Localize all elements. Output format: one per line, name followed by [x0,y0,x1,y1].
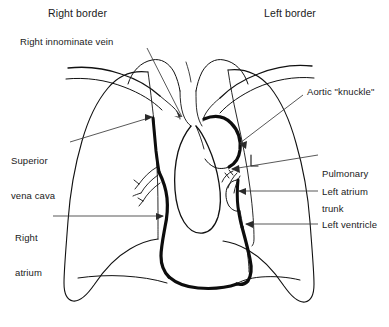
right-lung-apex-dome [128,60,180,91]
left-lung-apex-dome [196,60,248,91]
aortic-knuckle-outline [204,117,240,167]
aortic-outflow-inner-line [196,126,204,149]
leader-lines [53,48,318,224]
right-hilum-hatching [133,167,160,206]
left-ventricle-label: Left ventricle [322,219,377,231]
right-innominate-vein-label: Right innominate vein [20,36,113,48]
pulmonary-trunk-label-line2: trunk [322,203,368,215]
right-heart-base-border [169,277,237,288]
right-atrium-border [159,172,169,277]
trachea-left-wall [196,91,202,126]
superior-vena-cava-label-line1: Superior [11,155,55,167]
aortic-knuckle-label: Aortic "knuckle" [307,86,374,98]
left-clavicle-lower [220,77,314,113]
left-ventricle-border [237,227,251,284]
ascending-aorta-outline [175,126,221,233]
left-atrium-label: Left atrium [322,186,368,198]
trachea-right-wall [180,91,191,126]
right-atrium-label: Right atrium [15,209,42,301]
arrowhead-left-atrium [238,188,246,195]
right-border-heading: Right border [48,8,107,20]
neck-midline-shadow [186,62,191,82]
descending-aorta-shadow [205,159,229,169]
left-border-heading: Left border [264,8,316,20]
arrowhead-left-ventricle [245,221,253,228]
superior-vena-cava-border [153,118,159,172]
pulmonary-trunk-label-line1: Pulmonary [322,168,368,180]
leader-superior-vena-cava [70,117,152,142]
superior-vena-cava-label-line2: vena cava [11,190,55,202]
right-lung-outline [64,72,158,301]
aortic-knuckle-tick-marker [251,155,258,166]
right-clavicle-lower [66,78,162,110]
chest-xray-diagram: Right border Left border Right innominat… [0,0,389,327]
arrowhead-right-atrium [156,213,164,220]
left-clavicle-upper [220,65,312,98]
right-atrium-label-line2: atrium [15,267,42,279]
right-atrium-label-line1: Right [15,232,42,244]
right-hemidiaphragm [78,276,167,283]
